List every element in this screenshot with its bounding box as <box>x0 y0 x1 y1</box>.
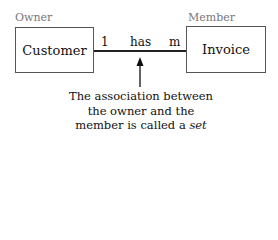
caption-line-2: the owner and the <box>60 104 222 119</box>
caption-line-3: member is called a set <box>60 118 222 133</box>
caption-line-3-text: member is called a <box>75 118 189 132</box>
caption-line-1: The association between <box>60 89 222 104</box>
caption: The association between the owner and th… <box>60 89 222 133</box>
caption-emphasis: set <box>189 118 206 132</box>
